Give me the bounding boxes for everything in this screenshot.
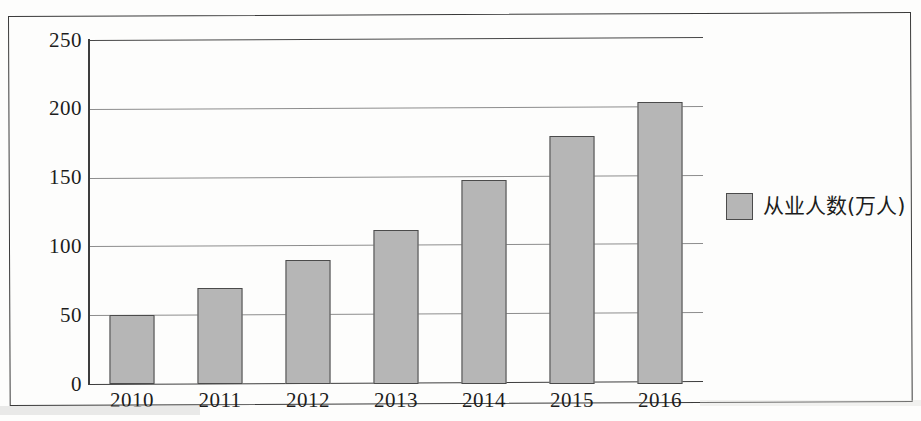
legend-label: 从业人数(万人) (763, 196, 905, 217)
bar-2012[interactable] (286, 260, 331, 384)
x-axis-tick-labels: 2010 2011 2012 2013 2014 2015 2016 (88, 388, 703, 420)
x-tick-label-2013: 2013 (352, 388, 440, 412)
chart-legend: 从业人数(万人) (726, 193, 905, 220)
figure-root: 250 200 150 100 50 0 (0, 0, 921, 421)
bar-2014[interactable] (462, 180, 507, 384)
bar-2011[interactable] (198, 288, 243, 384)
bar-slot-2010 (88, 40, 176, 384)
y-tick-label-150: 150 (8, 167, 82, 188)
x-tick-label-2012: 2012 (264, 388, 352, 412)
y-tick-label-50: 50 (8, 305, 82, 326)
x-tick-label-2015: 2015 (528, 388, 616, 412)
bar-2013[interactable] (374, 230, 419, 384)
bar-2016[interactable] (638, 102, 683, 384)
bar-slot-2014 (440, 40, 528, 384)
bar-chart: 250 200 150 100 50 0 (0, 0, 921, 421)
x-tick-label-2014: 2014 (440, 388, 528, 412)
bar-slot-2011 (176, 40, 264, 384)
bar-slot-2015 (528, 40, 616, 384)
y-tick-label-250: 250 (8, 30, 82, 51)
y-axis-tick-labels: 250 200 150 100 50 0 (0, 0, 82, 421)
x-tick-label-2016: 2016 (616, 388, 704, 412)
scan-artifact-bottom-right (700, 400, 921, 406)
bars-layer (88, 40, 703, 384)
scan-artifact-bottom-left (0, 406, 200, 415)
bar-2010[interactable] (110, 315, 155, 384)
bar-2015[interactable] (550, 136, 595, 384)
y-tick-label-0: 0 (8, 374, 82, 395)
bar-slot-2013 (352, 40, 440, 384)
y-tick-label-200: 200 (8, 98, 82, 119)
bar-slot-2012 (264, 40, 352, 384)
legend-color-swatch (726, 193, 753, 220)
bar-slot-2016 (616, 40, 704, 384)
y-tick-label-100: 100 (8, 236, 82, 257)
